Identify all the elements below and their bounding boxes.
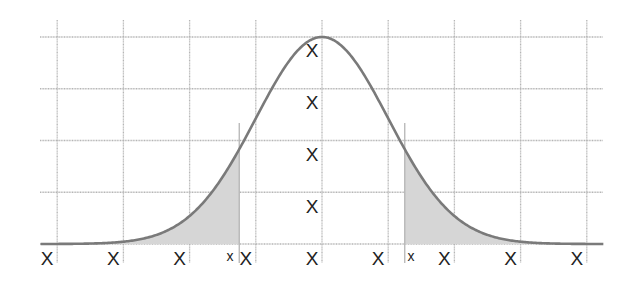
y-tick-label: X — [306, 40, 319, 61]
y-tick-label: X — [306, 196, 319, 217]
y-axis-tick-labels: XXXX — [306, 40, 319, 217]
critical-value-label: x — [408, 248, 415, 264]
y-tick-label: X — [306, 92, 319, 113]
y-tick-label: X — [306, 144, 319, 165]
x-tick-label: X — [239, 248, 252, 269]
x-tick-label: X — [438, 248, 451, 269]
x-tick-label: X — [107, 248, 120, 269]
x-tick-label: X — [306, 248, 319, 269]
x-tick-label: X — [372, 248, 385, 269]
grid-lines — [40, 20, 603, 263]
x-tick-label: X — [504, 248, 517, 269]
x-tick-label: X — [41, 248, 54, 269]
critical-value-labels: xx — [227, 248, 415, 264]
x-tick-label: X — [173, 248, 186, 269]
critical-value-label: x — [227, 248, 234, 264]
x-axis-tick-labels: XXXXXXXXX — [41, 248, 584, 269]
x-tick-label: X — [570, 248, 583, 269]
normal-distribution-chart: XXXXXXXXX XXXX xx — [0, 0, 633, 287]
